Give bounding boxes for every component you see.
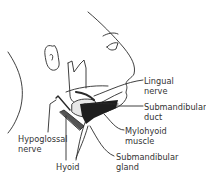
label-lingual-nerve: Lingual nerve: [144, 76, 174, 96]
ear: [45, 45, 59, 70]
label-hypoglossal-nerve: Hypoglossal nerve: [18, 134, 68, 154]
label-line: Lingual: [144, 76, 174, 86]
label-submandibular-gland: Submandibular gland: [116, 152, 178, 172]
back-of-head-outline: [8, 52, 22, 133]
lower-jaw: [66, 86, 108, 92]
label-line: Hyoid: [56, 162, 79, 172]
label-line: Hypoglossal: [18, 134, 68, 144]
label-mylohyoid-muscle: Mylohyoid muscle: [125, 126, 167, 146]
leader-mylohyoid-muscle: [104, 114, 124, 130]
leader-submandibular-gland: [90, 126, 114, 156]
label-line: gland: [116, 162, 178, 172]
hypoglossal-nerve-path: [56, 96, 70, 110]
label-hyoid: Hyoid: [56, 162, 79, 172]
eye: [107, 43, 118, 50]
label-line: nerve: [18, 144, 68, 154]
mandible-ramus: [68, 60, 86, 104]
anatomy-diagram: Lingual nerve Submandibular duct Mylohyo…: [0, 0, 206, 184]
eyebrow: [103, 33, 118, 36]
leader-hypoglossal-nerve: [48, 100, 56, 132]
label-line: Mylohyoid: [125, 126, 167, 136]
label-line: muscle: [125, 136, 167, 146]
label-line: Submandibular: [116, 152, 178, 162]
label-line: duct: [144, 112, 206, 122]
label-line: nerve: [144, 86, 174, 96]
label-line: Submandibular: [144, 102, 206, 112]
label-submandibular-duct: Submandibular duct: [144, 102, 206, 122]
